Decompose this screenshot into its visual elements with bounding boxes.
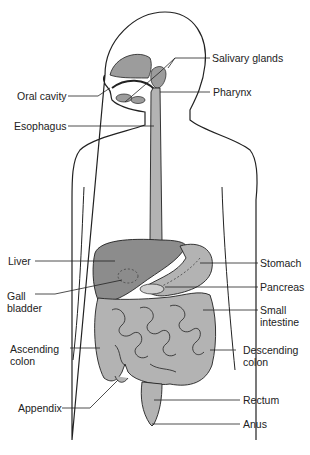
label-descending-colon: Descending colon xyxy=(243,344,298,368)
label-esophagus: Esophagus xyxy=(14,120,67,132)
label-oral-cavity: Oral cavity xyxy=(17,90,67,102)
digestive-system-diagram: Salivary glands Oral cavity Pharynx Esop… xyxy=(0,0,310,455)
label-anus: Anus xyxy=(243,418,267,430)
esophagus xyxy=(150,88,162,248)
anatomy-illustration xyxy=(0,0,310,455)
rectum xyxy=(141,382,162,426)
large-intestine xyxy=(95,293,216,385)
label-gall-bladder: Gall bladder xyxy=(7,290,42,314)
label-small-intestine: Small intestine xyxy=(260,304,299,328)
label-rectum: Rectum xyxy=(243,394,279,406)
label-stomach: Stomach xyxy=(260,257,301,269)
label-liver: Liver xyxy=(8,255,31,267)
label-ascending-colon: Ascending colon xyxy=(10,343,59,367)
label-appendix: Appendix xyxy=(18,402,62,414)
label-pharynx: Pharynx xyxy=(213,86,252,98)
label-pancreas: Pancreas xyxy=(260,281,304,293)
label-salivary-glands: Salivary glands xyxy=(212,52,283,64)
